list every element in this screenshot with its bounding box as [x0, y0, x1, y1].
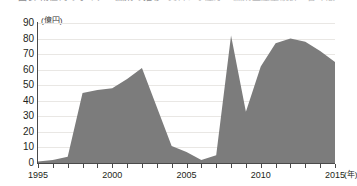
x-tick-mark — [68, 164, 69, 168]
x-tick-mark — [38, 164, 39, 168]
x-tick-mark — [276, 164, 277, 168]
x-tick-mark — [157, 164, 158, 168]
x-tick-mark — [231, 164, 232, 168]
x-tick-mark — [172, 164, 173, 168]
x-tick-label: 2005 — [176, 170, 196, 180]
x-tick-mark — [201, 164, 202, 168]
x-tick-mark — [187, 164, 188, 168]
x-tick-mark — [112, 164, 113, 168]
y-tick-label: 0 — [4, 158, 34, 168]
x-tick-mark — [97, 164, 98, 168]
x-axis-unit-label: (年) — [344, 170, 357, 180]
y-tick-label: 90 — [4, 18, 34, 28]
y-tick-label: 30 — [4, 111, 34, 121]
x-tick-mark — [83, 164, 84, 168]
x-tick-mark — [290, 164, 291, 168]
clipped-caption-strip: 図表 南極海のオキアミ漁業の推移 資料：水産庁 漁業生産量統計 各年版 — [0, 0, 343, 9]
y-tick-label: 10 — [4, 142, 34, 152]
area-series-polygon — [38, 35, 335, 163]
x-tick-label: 2010 — [251, 170, 271, 180]
caption-title-sliver: 図表 南極海のオキアミ漁業の推移 — [18, 0, 162, 3]
x-tick-mark — [142, 164, 143, 168]
x-tick-label: 2015 — [325, 170, 345, 180]
y-tick-label: 20 — [4, 127, 34, 137]
x-tick-mark — [127, 164, 128, 168]
y-tick-label: 40 — [4, 96, 34, 106]
x-tick-label: 1995 — [28, 170, 48, 180]
y-axis-tick-labels: 0102030405060708090 — [0, 0, 34, 186]
x-tick-mark — [53, 164, 54, 168]
y-tick-label: 50 — [4, 80, 34, 90]
x-tick-mark — [216, 164, 217, 168]
x-tick-mark — [320, 164, 321, 168]
x-tick-mark — [335, 164, 336, 168]
x-tick-mark — [246, 164, 247, 168]
y-tick-label: 70 — [4, 49, 34, 59]
y-tick-label: 60 — [4, 65, 34, 75]
y-axis-line — [37, 22, 38, 164]
area-series — [38, 23, 335, 164]
x-tick-mark — [305, 164, 306, 168]
x-tick-mark — [261, 164, 262, 168]
x-tick-label: 2000 — [102, 170, 122, 180]
caption-source-sliver: 資料：水産庁 漁業生産量統計 各年版 — [168, 0, 335, 3]
y-tick-label: 80 — [4, 34, 34, 44]
